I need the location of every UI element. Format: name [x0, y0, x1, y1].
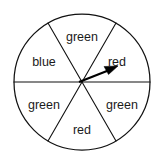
spinner-diagram: red green blue green red green [0, 0, 156, 164]
sector-label-bottom: red [73, 123, 91, 137]
sector-label-upper-left: blue [32, 55, 56, 69]
spinner-svg-canvas: red green blue green red green [0, 0, 156, 164]
sector-label-lower-right: green [106, 98, 138, 112]
sector-label-top: green [66, 30, 98, 44]
sector-label-lower-left: green [28, 98, 60, 112]
